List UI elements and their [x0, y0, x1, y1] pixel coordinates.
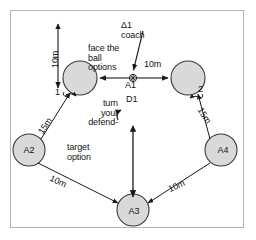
ball-carrier-label: A1 — [125, 81, 136, 91]
face-ball-options-label: face the ball options — [88, 44, 119, 73]
measure-10m-vertical-label: 10m — [51, 51, 61, 68]
player-a4-label: A4 — [217, 145, 228, 155]
defender-label: D1 — [126, 95, 137, 105]
run-one-label: 1 — [55, 88, 60, 98]
target-option-label: target option — [67, 143, 91, 162]
turn-your-defend-label: turn your defend- — [88, 99, 118, 128]
coach-label: Δ1 coach — [121, 21, 145, 40]
player-a2-label: A2 — [23, 145, 34, 155]
run-two-label: 2 — [198, 85, 203, 95]
player-a3-label: A3 — [128, 206, 139, 216]
diagram-page: A2 A4 A3 Δ1 coach face the ball options … — [0, 0, 256, 240]
measure-10m-center-label: 10m — [144, 60, 161, 70]
